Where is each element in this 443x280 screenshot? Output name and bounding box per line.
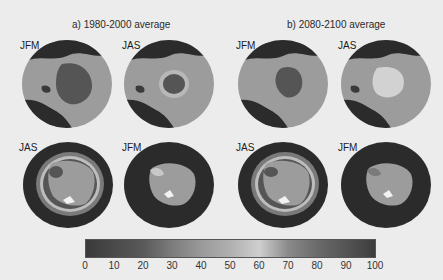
map-label: JFM xyxy=(236,40,255,51)
map-label: JAS xyxy=(122,40,140,51)
colorbar-tick: 80 xyxy=(311,260,322,271)
antarctic-map-a-jfm xyxy=(124,142,214,228)
arctic-map-a-jfm xyxy=(22,40,112,128)
map-label: JAS xyxy=(236,142,254,153)
arctic-map-b-jfm xyxy=(238,40,328,128)
antarctic-map-b-jas xyxy=(238,142,328,228)
antarctic-map-b-jfm xyxy=(341,142,431,228)
arctic-map-b-jas xyxy=(341,40,431,128)
colorbar-tick: 70 xyxy=(282,260,293,271)
arctic-map-a-jas xyxy=(124,40,214,128)
colorbar-tick: 40 xyxy=(195,260,206,271)
panel-b-title: b) 2080-2100 average xyxy=(287,19,385,30)
colorbar-tick: 60 xyxy=(253,260,264,271)
colorbar-tick: 30 xyxy=(166,260,177,271)
map-label: JFM xyxy=(20,40,39,51)
colorbar-tick: 50 xyxy=(224,260,235,271)
colorbar-tick: 10 xyxy=(108,260,119,271)
colorbar-tick: 0 xyxy=(82,260,88,271)
map-label: JAS xyxy=(19,142,37,153)
antarctic-map-a-jas xyxy=(23,142,113,228)
colorbar xyxy=(85,239,376,258)
colorbar-tick: 90 xyxy=(340,260,351,271)
map-label: JFM xyxy=(338,142,357,153)
panel-a-title: a) 1980-2000 average xyxy=(72,19,170,30)
map-label: JAS xyxy=(338,40,356,51)
colorbar-tick: 100 xyxy=(367,260,384,271)
map-label: JFM xyxy=(122,142,141,153)
colorbar-tick: 20 xyxy=(137,260,148,271)
